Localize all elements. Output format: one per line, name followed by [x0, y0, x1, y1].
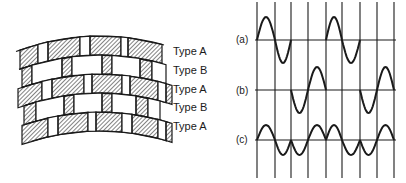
brick-courses — [16, 36, 172, 144]
hatched-brick — [92, 74, 122, 94]
hatched-brick — [166, 84, 172, 105]
plain-brick — [148, 98, 160, 120]
plain-brick — [74, 93, 102, 114]
trace-label-b: (b) — [236, 85, 248, 97]
hatched-brick — [166, 122, 172, 143]
trace-label-c: (c) — [236, 134, 248, 146]
hatched-brick — [140, 59, 152, 80]
plain-brick — [88, 112, 96, 131]
hatched-brick — [58, 112, 88, 135]
hatched-brick — [96, 112, 122, 132]
plain-brick — [112, 55, 140, 77]
plain-brick — [80, 36, 90, 56]
plain-brick — [38, 42, 48, 64]
hatched-brick — [62, 57, 72, 77]
waveform-panel — [255, 2, 396, 178]
plain-brick — [84, 74, 92, 94]
row-label-4: Type B — [173, 101, 207, 113]
hatched-brick — [102, 93, 112, 112]
plain-brick — [122, 75, 130, 95]
plain-brick — [72, 55, 102, 76]
plain-brick — [48, 116, 58, 137]
row-label-3: Type A — [173, 83, 207, 95]
hatched-brick — [136, 96, 148, 117]
hatched-brick — [22, 65, 32, 87]
row-label-5: Type A — [173, 120, 207, 132]
plain-brick — [122, 113, 132, 133]
plain-brick — [121, 37, 128, 57]
plain-brick — [42, 79, 52, 100]
plain-brick — [112, 93, 136, 115]
row-label-1: Type A — [173, 45, 207, 57]
trace-label-a: (a) — [236, 34, 248, 46]
row-label-2: Type B — [173, 64, 207, 76]
hatched-brick — [90, 36, 121, 56]
hatched-brick — [64, 95, 74, 115]
plain-brick — [158, 119, 166, 140]
hatched-brick — [102, 55, 112, 74]
plain-brick — [158, 81, 166, 102]
